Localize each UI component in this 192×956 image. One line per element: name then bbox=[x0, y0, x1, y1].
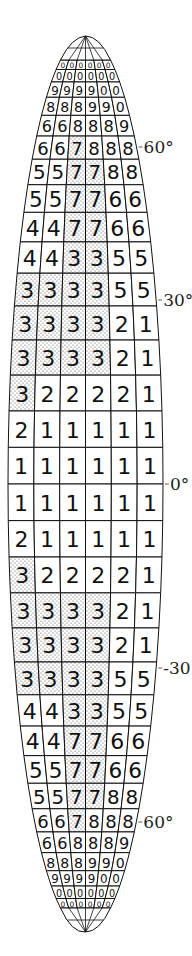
cell-value: 8 bbox=[105, 138, 117, 159]
cell-value: 3 bbox=[66, 633, 80, 658]
cell-value: 8 bbox=[107, 161, 120, 184]
cell-value: 2 bbox=[41, 563, 55, 588]
cell-value: 1 bbox=[117, 454, 131, 479]
cell-value: 2 bbox=[66, 382, 80, 407]
cell-value: 4 bbox=[47, 216, 61, 241]
cell-value: 0 bbox=[109, 71, 115, 82]
cell-value: 1 bbox=[143, 418, 157, 443]
cell-value: 2 bbox=[115, 312, 129, 337]
cell-value: 8 bbox=[104, 834, 114, 853]
cell-value: 0 bbox=[56, 71, 62, 82]
cell-value: 0 bbox=[88, 61, 93, 70]
cell-value: 1 bbox=[66, 454, 80, 479]
cell-value: 8 bbox=[88, 811, 100, 832]
cell-value: 7 bbox=[69, 758, 83, 783]
cell-value: 7 bbox=[70, 161, 83, 184]
cell-value: 1 bbox=[40, 527, 54, 552]
cell-value: 9 bbox=[88, 84, 96, 98]
cell-value: 0 bbox=[67, 888, 73, 899]
cell-value: 2 bbox=[66, 563, 80, 588]
cell-value: 3 bbox=[20, 278, 34, 303]
cell-value: 6 bbox=[42, 834, 52, 853]
cell-value: 1 bbox=[66, 418, 80, 443]
grid-cells: 0000000000009999008889906688896678885577… bbox=[8, 60, 163, 909]
cell-value: 3 bbox=[20, 667, 34, 692]
cell-value: 1 bbox=[66, 491, 80, 516]
cell-value: 6 bbox=[37, 138, 49, 159]
cell-value: 4 bbox=[45, 699, 59, 724]
cell-value: 6 bbox=[54, 138, 66, 159]
cell-value: 4 bbox=[47, 729, 61, 754]
cell-value: 0 bbox=[79, 61, 84, 70]
cell-value: 1 bbox=[142, 382, 156, 407]
cell-value: 0 bbox=[98, 71, 104, 82]
cell-value: 1 bbox=[140, 346, 154, 371]
cell-value: 3 bbox=[66, 312, 80, 337]
cell-value: 1 bbox=[143, 527, 157, 552]
cell-value: 1 bbox=[40, 454, 54, 479]
cell-value: 9 bbox=[88, 855, 97, 871]
cell-value: 3 bbox=[17, 599, 31, 624]
cell-value: 1 bbox=[143, 454, 157, 479]
cell-value: 1 bbox=[40, 491, 54, 516]
cell-value: 1 bbox=[139, 312, 153, 337]
cell-value: 5 bbox=[51, 786, 64, 809]
cell-value: 6 bbox=[128, 187, 142, 212]
cell-value: 5 bbox=[29, 187, 43, 212]
cell-value: 0 bbox=[88, 900, 93, 909]
cell-value: 6 bbox=[131, 729, 145, 754]
cell-value: 9 bbox=[51, 872, 59, 886]
cell-value: 5 bbox=[113, 278, 127, 303]
cell-value: 0 bbox=[77, 71, 83, 82]
cell-value: 3 bbox=[90, 278, 104, 303]
latitude-label: 0° bbox=[170, 474, 189, 494]
cell-value: 6 bbox=[37, 811, 49, 832]
cell-value: 7 bbox=[89, 758, 103, 783]
cell-value: 9 bbox=[76, 872, 84, 886]
cell-value: 2 bbox=[116, 563, 130, 588]
cell-value: 5 bbox=[51, 161, 64, 184]
cell-value: 3 bbox=[15, 563, 29, 588]
cell-value: 8 bbox=[74, 99, 83, 115]
cell-value: 8 bbox=[46, 99, 55, 115]
cell-value: 4 bbox=[45, 246, 59, 271]
cell-value: 5 bbox=[33, 161, 46, 184]
cell-value: 6 bbox=[131, 216, 145, 241]
cell-value: 7 bbox=[89, 216, 103, 241]
cell-value: 6 bbox=[42, 117, 52, 136]
cell-value: 5 bbox=[112, 699, 126, 724]
cell-value: 1 bbox=[139, 633, 153, 658]
cell-value: 8 bbox=[60, 855, 69, 871]
cell-value: 6 bbox=[108, 758, 122, 783]
cell-value: 2 bbox=[116, 346, 130, 371]
cell-value: 3 bbox=[18, 312, 32, 337]
cell-value: 7 bbox=[88, 786, 101, 809]
latitude-label: 60° bbox=[144, 137, 174, 157]
cell-value: 9 bbox=[119, 117, 129, 136]
latitude-label: -30° bbox=[163, 658, 192, 678]
cell-value: 8 bbox=[73, 834, 83, 853]
cell-value: 2 bbox=[41, 382, 55, 407]
cell-value: 4 bbox=[23, 246, 37, 271]
cell-value: 1 bbox=[143, 491, 157, 516]
cell-value: 8 bbox=[122, 138, 134, 159]
cell-value: 0 bbox=[112, 84, 120, 98]
cell-value: 2 bbox=[91, 382, 105, 407]
cell-value: 9 bbox=[88, 99, 97, 115]
cell-value: 0 bbox=[79, 900, 84, 909]
cell-value: 4 bbox=[26, 216, 40, 241]
cell-value: 0 bbox=[88, 71, 94, 82]
cell-value: 0 bbox=[88, 888, 94, 899]
cell-value: 5 bbox=[33, 786, 46, 809]
cell-value: 7 bbox=[88, 161, 101, 184]
cell-value: 7 bbox=[89, 187, 103, 212]
cell-value: 6 bbox=[128, 758, 142, 783]
cell-value: 0 bbox=[97, 61, 102, 70]
cell-value: 0 bbox=[70, 900, 75, 909]
cell-value: 0 bbox=[67, 71, 73, 82]
cell-value: 3 bbox=[44, 278, 58, 303]
cell-value: 9 bbox=[63, 872, 71, 886]
cell-value: 3 bbox=[67, 699, 81, 724]
cell-value: 7 bbox=[68, 729, 82, 754]
cell-value: 5 bbox=[137, 278, 151, 303]
